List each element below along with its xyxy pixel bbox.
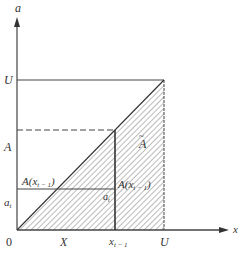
y-tick-a: A (3, 140, 12, 154)
x-tick-u: U (160, 235, 170, 249)
y-axis-label: a (15, 1, 21, 15)
x-tick-x-t1: xt − 1 (108, 235, 128, 249)
origin-label: 0 (6, 235, 12, 249)
y-axis-arrow-icon (14, 17, 20, 27)
annotation-a-x-t1-left: A(xt − 1) (21, 175, 55, 189)
diagram-canvas: a x 0 U A at X xt − 1 U A(xt − 1) A(xt −… (0, 0, 242, 256)
y-tick-a-t: at (4, 196, 13, 210)
y-tick-u: U (4, 73, 14, 87)
annotation-a-bar-accent: ~ (139, 131, 144, 141)
x-axis-arrow-icon (219, 227, 229, 233)
x-axis-label: x (232, 223, 238, 235)
x-tick-x: X (59, 235, 68, 249)
